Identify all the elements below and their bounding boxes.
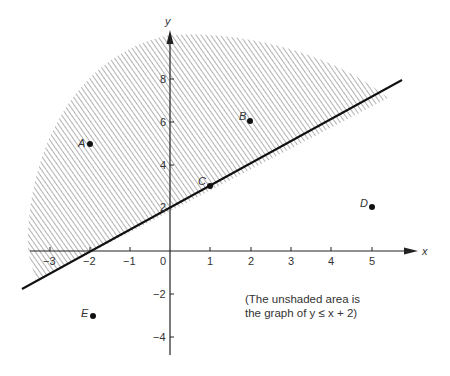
y-tick-label: −4 (153, 331, 166, 343)
y-tick-label: 4 (160, 159, 166, 171)
x-tick-label: −3 (43, 255, 56, 267)
point-c (207, 183, 213, 189)
x-tick-label: 4 (328, 255, 334, 267)
caption-line-1: (The unshaded area is (245, 292, 360, 306)
x-tick-label: −2 (83, 255, 96, 267)
point-d-label: D (360, 197, 368, 209)
point-d (369, 204, 375, 210)
y-tick-label: 2 (160, 201, 166, 213)
point-b-label: B (239, 110, 246, 122)
x-tick-label: 2 (248, 255, 254, 267)
graph-canvas (0, 0, 450, 376)
x-tick-label: 5 (369, 255, 375, 267)
y-tick-label: 8 (160, 73, 166, 85)
point-e (90, 313, 96, 319)
x-tick-label: 3 (288, 255, 294, 267)
caption-note: (The unshaded area is the graph of y ≤ x… (245, 292, 360, 320)
x-axis-label: x (422, 245, 428, 257)
caption-line-2: the graph of y ≤ x + 2) (245, 306, 360, 320)
y-axis-label: y (165, 15, 171, 27)
point-e-label: E (81, 307, 88, 319)
x-tick-label: −1 (123, 255, 136, 267)
shaded-region (28, 34, 388, 281)
y-tick-label: 6 (160, 116, 166, 128)
point-a-label: A (78, 137, 85, 149)
point-a (87, 141, 93, 147)
y-tick-label: −2 (153, 288, 166, 300)
point-c-label: C (198, 175, 206, 187)
x-tick-label: 0 (160, 255, 166, 267)
point-b (247, 118, 253, 124)
x-tick-label: 1 (207, 255, 213, 267)
